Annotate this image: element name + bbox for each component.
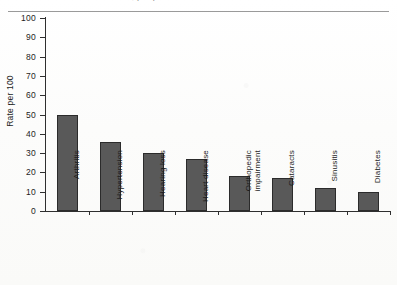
x-axis-tick	[89, 211, 90, 215]
y-axis-tick	[40, 76, 45, 77]
x-axis-tick	[304, 211, 305, 215]
y-axis-tick-label: 100	[0, 14, 36, 23]
x-axis-tick-label: Sinusitis	[330, 150, 339, 216]
chart-page: chronic conditions, people 65 and over R…	[0, 0, 397, 285]
y-axis-tick	[40, 95, 45, 96]
y-axis-tick	[40, 115, 45, 116]
x-axis-tick-label: Diabetes	[373, 150, 382, 216]
x-axis-tick	[218, 211, 219, 215]
x-axis-tick-label: Cataracts	[287, 150, 296, 216]
x-axis-tick	[132, 211, 133, 215]
y-axis-tick	[40, 192, 45, 193]
x-axis-tick-label: Arthritis	[72, 150, 81, 216]
y-axis-tick-label: 0	[0, 207, 36, 216]
x-axis-tick	[390, 211, 391, 215]
y-axis-tick	[40, 211, 45, 212]
y-axis-tick	[40, 37, 45, 38]
y-axis-tick	[40, 134, 45, 135]
y-axis-tick-label: 50	[0, 111, 36, 120]
y-axis-tick-label: 70	[0, 72, 36, 81]
x-axis-tick	[175, 211, 176, 215]
x-axis-tick-label: Heart disease	[201, 150, 210, 216]
y-axis-tick	[40, 57, 45, 58]
x-axis-tick-label: Hearing loss	[158, 150, 167, 216]
y-axis-tick-label: 30	[0, 149, 36, 158]
y-axis-tick	[40, 18, 45, 19]
y-axis-tick	[40, 153, 45, 154]
y-axis-tick-label: 10	[0, 188, 36, 197]
y-axis-tick-label: 20	[0, 168, 36, 177]
y-axis-tick-label: 40	[0, 130, 36, 139]
x-axis-tick	[347, 211, 348, 215]
bar-chart: Rate per 100 0102030405060708090100 Arth…	[0, 0, 397, 285]
y-axis-tick	[40, 172, 45, 173]
y-axis-tick-label: 60	[0, 91, 36, 100]
y-axis-tick-label: 90	[0, 33, 36, 42]
x-axis-tick-label: Hypertension	[115, 150, 124, 216]
x-axis-tick-label: Orthopedic impairment	[244, 150, 262, 216]
y-axis-tick-label: 80	[0, 53, 36, 62]
